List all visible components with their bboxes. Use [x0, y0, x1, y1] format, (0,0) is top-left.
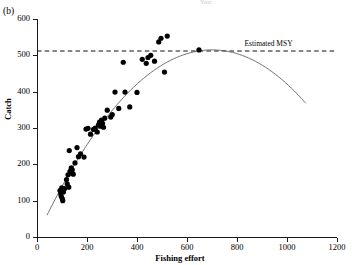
y-tick-label-500: 500: [4, 50, 30, 59]
scatter-point: [105, 108, 110, 113]
x-axis-label: Fishing effort: [120, 253, 240, 263]
y-tick-label-200: 200: [4, 159, 30, 168]
scatter-point: [95, 129, 100, 134]
scatter-point: [121, 60, 126, 65]
scatter-point: [71, 172, 76, 177]
x-tick-label-200: 200: [67, 243, 107, 252]
fitted-production-curve: [47, 50, 306, 215]
scatter-point: [110, 112, 115, 117]
scatter-point: [158, 36, 163, 41]
scatter-point: [116, 106, 121, 111]
scatter-points: [57, 33, 201, 203]
scatter-point: [140, 57, 145, 62]
scatter-point: [88, 132, 93, 137]
scatter-point: [66, 185, 71, 190]
plot-area: [37, 19, 337, 237]
x-tick-label-600: 600: [167, 243, 207, 252]
scatter-point: [196, 47, 201, 52]
scatter-point: [165, 33, 170, 38]
scatter-point: [112, 89, 117, 94]
estimated-msy-label: Estimated MSY: [245, 39, 293, 48]
scatter-point: [67, 148, 72, 153]
chart-canvas: [37, 19, 337, 237]
scatter-point: [101, 125, 106, 130]
y-tick-label-100: 100: [4, 196, 30, 205]
x-tick-label-800: 800: [217, 243, 257, 252]
scatter-point: [60, 198, 65, 203]
x-tick-label-1000: 1000: [267, 243, 307, 252]
x-tick-label-1200: 1200: [317, 243, 357, 252]
scatter-point: [85, 126, 90, 131]
scatter-point: [152, 59, 157, 64]
scatter-point: [122, 89, 127, 94]
scatter-point: [127, 104, 132, 109]
scatter-point: [64, 177, 69, 182]
y-tick-label-0: 0: [4, 232, 30, 241]
clipped-top-caption: Year: [186, 0, 226, 6]
scatter-point: [148, 53, 153, 58]
y-tick-label-400: 400: [4, 87, 30, 96]
scatter-point: [70, 167, 75, 172]
scatter-point: [74, 145, 79, 150]
y-tick-label-300: 300: [4, 123, 30, 132]
scatter-point: [102, 116, 107, 121]
scatter-point: [162, 69, 167, 74]
scatter-point: [72, 160, 77, 165]
scatter-point: [144, 61, 149, 66]
scatter-point: [81, 154, 86, 159]
x-tick-label-400: 400: [117, 243, 157, 252]
x-tick-label-0: 0: [17, 243, 57, 252]
scatter-point: [134, 90, 139, 95]
y-tick-label-600: 600: [4, 14, 30, 23]
figure-panel-b: Year (b) Catch Fishing effort 0100200300…: [0, 0, 359, 265]
